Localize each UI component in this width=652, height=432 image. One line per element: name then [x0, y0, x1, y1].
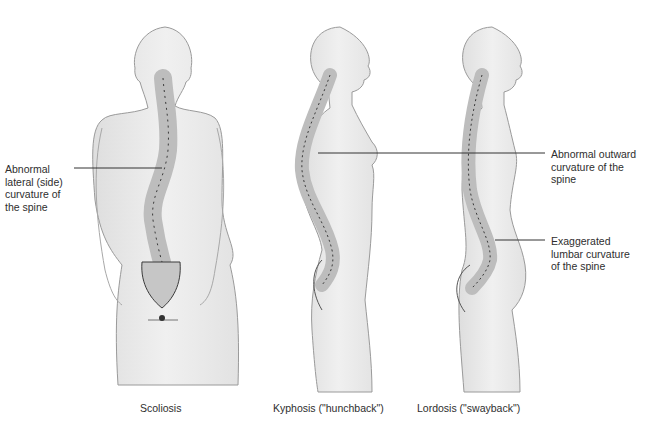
- annotation-line: Exaggerated: [551, 235, 630, 248]
- kyphosis-figure: [300, 27, 377, 392]
- kyphosis-caption: Kyphosis ("hunchback"): [273, 402, 384, 414]
- lordosis-figure: [457, 27, 526, 392]
- annotation-line: lateral (side): [5, 176, 63, 189]
- annotation-line: the spine: [5, 201, 63, 214]
- lordosis-annotation: Exaggerated lumbar curvature of the spin…: [551, 235, 630, 273]
- scoliosis-annotation: Abnormal lateral (side) curvature of the…: [5, 163, 63, 213]
- annotation-line: lumbar curvature: [551, 248, 630, 261]
- kyphosis-annotation: Abnormal outward curvature of the spine: [551, 148, 636, 186]
- scoliosis-caption: Scoliosis: [140, 402, 181, 414]
- spine-curvature-illustration: [0, 0, 652, 432]
- annotation-line: curvature of the: [551, 161, 636, 174]
- lordosis-caption: Lordosis ("swayback"): [417, 402, 520, 414]
- annotation-line: Abnormal outward: [551, 148, 636, 161]
- annotation-line: Abnormal: [5, 163, 63, 176]
- annotation-line: spine: [551, 173, 636, 186]
- scoliosis-figure: [93, 27, 239, 385]
- annotation-line: of the spine: [551, 260, 630, 273]
- annotation-line: curvature of: [5, 188, 63, 201]
